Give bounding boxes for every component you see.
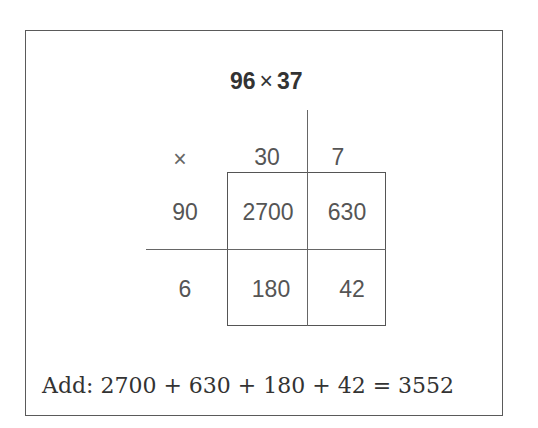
- multiply-symbol: ×: [160, 146, 200, 173]
- multiplicand: 96: [230, 68, 256, 94]
- row-header-90: 90: [160, 199, 210, 226]
- row-header-6: 6: [160, 276, 210, 303]
- row-divider-left: [146, 249, 227, 250]
- col-header-7: 7: [318, 144, 358, 171]
- cell-2700: 2700: [229, 199, 307, 226]
- cell-42: 42: [314, 276, 390, 303]
- grid-horizontal-divider: [227, 249, 386, 250]
- sum-equation: Add: 2700 + 630 + 180 + 42 = 3552: [42, 373, 454, 398]
- cell-630: 630: [309, 199, 385, 226]
- col-header-30: 30: [237, 144, 297, 171]
- problem-title: 96×37: [230, 68, 303, 95]
- times-symbol: ×: [260, 68, 273, 94]
- cell-180: 180: [232, 276, 310, 303]
- multiplier: 37: [277, 68, 303, 94]
- column-divider-top: [307, 110, 308, 172]
